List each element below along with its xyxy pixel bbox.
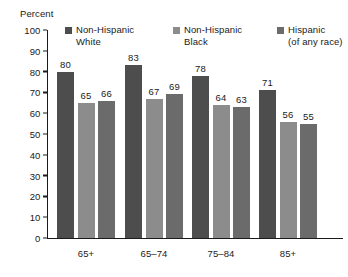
y-axis-tick: 20	[30, 191, 47, 202]
chart-legend: Non-Hispanic WhiteNon-Hispanic BlackHisp…	[65, 24, 345, 50]
y-axis-tick: 70	[30, 87, 47, 98]
bar-group: 83676965–74	[125, 30, 183, 238]
y-axis-tick-mark	[43, 154, 47, 155]
y-axis-tick-mark	[43, 237, 47, 238]
y-axis-tick-mark	[43, 71, 47, 72]
bar-value-label: 65	[81, 90, 92, 101]
y-axis-tick-label: 90	[30, 45, 41, 56]
bar[interactable]: 80	[57, 72, 74, 238]
legend-color-swatch	[277, 27, 284, 34]
bar-value-label: 69	[169, 81, 180, 92]
y-axis-tick: 0	[35, 233, 47, 244]
y-axis-tick: 30	[30, 170, 47, 181]
y-axis-tick: 60	[30, 108, 47, 119]
y-axis-tick-label: 0	[35, 233, 40, 244]
y-axis-tick-mark	[43, 92, 47, 93]
bar-value-label: 66	[101, 88, 112, 99]
bar[interactable]: 71	[259, 90, 276, 238]
y-axis-tick: 80	[30, 66, 47, 77]
y-axis-tick-mark	[43, 216, 47, 217]
y-axis-tick-label: 50	[30, 129, 41, 140]
bar[interactable]: 66	[98, 101, 115, 238]
y-axis-tick-label: 10	[30, 212, 41, 223]
bar-group: 71565585+	[259, 30, 317, 238]
y-axis-tick-label: 20	[30, 191, 41, 202]
bar-value-label: 67	[149, 86, 160, 97]
y-axis-tick-label: 40	[30, 149, 41, 160]
y-axis-tick-mark	[43, 50, 47, 51]
y-axis-tick: 50	[30, 129, 47, 140]
bar-value-label: 55	[303, 111, 314, 122]
bar[interactable]: 64	[213, 105, 230, 238]
bar-value-label: 71	[262, 77, 273, 88]
bar-group: 78646375–84	[192, 30, 250, 238]
bar-group: 80656665+	[57, 30, 115, 238]
legend-label: Hispanic (of any race)	[288, 24, 343, 47]
legend-color-swatch	[65, 27, 72, 34]
y-axis-tick-label: 100	[24, 25, 40, 36]
y-axis-title: Percent	[20, 8, 53, 19]
y-axis-tick-mark	[43, 133, 47, 134]
y-axis-tick-label: 70	[30, 87, 41, 98]
y-axis-tick: 40	[30, 149, 47, 160]
bar-value-label: 63	[236, 94, 247, 105]
bar[interactable]: 83	[125, 65, 142, 238]
bar-chart: Percent 100908070605040302010080656665+8…	[0, 0, 348, 277]
x-axis-category-label: 65–74	[141, 248, 168, 259]
legend-item[interactable]: Non-Hispanic White	[65, 24, 134, 47]
bar[interactable]: 65	[78, 103, 95, 238]
x-axis-category-label: 65+	[78, 248, 94, 259]
y-axis-tick-label: 30	[30, 170, 41, 181]
x-axis-category-label: 75–84	[208, 248, 235, 259]
legend-item[interactable]: Non-Hispanic Black	[173, 24, 242, 47]
y-axis-tick-mark	[43, 175, 47, 176]
y-axis-tick-mark	[43, 112, 47, 113]
bar-value-label: 56	[283, 109, 294, 120]
bar[interactable]: 69	[166, 94, 183, 238]
bar-value-label: 80	[60, 59, 71, 70]
y-axis-tick: 90	[30, 45, 47, 56]
y-axis-tick: 100	[24, 25, 47, 36]
x-axis-category-label: 85+	[280, 248, 296, 259]
plot-area: 100908070605040302010080656665+83676965–…	[47, 30, 342, 238]
y-axis-tick-mark	[43, 196, 47, 197]
y-axis-tick: 10	[30, 212, 47, 223]
x-axis-line	[47, 238, 343, 239]
bar[interactable]: 67	[146, 99, 163, 238]
bar[interactable]: 55	[300, 124, 317, 238]
legend-item[interactable]: Hispanic (of any race)	[277, 24, 343, 47]
bar[interactable]: 56	[280, 122, 297, 238]
y-axis-tick-mark	[43, 29, 47, 30]
legend-label: Non-Hispanic White	[76, 24, 134, 47]
bar-value-label: 83	[128, 52, 139, 63]
legend-color-swatch	[173, 27, 180, 34]
bar[interactable]: 63	[233, 107, 250, 238]
y-axis-tick-label: 80	[30, 66, 41, 77]
legend-label: Non-Hispanic Black	[184, 24, 242, 47]
bar-value-label: 78	[195, 63, 206, 74]
bar-value-label: 64	[216, 92, 227, 103]
y-axis-tick-label: 60	[30, 108, 41, 119]
bar[interactable]: 78	[192, 76, 209, 238]
